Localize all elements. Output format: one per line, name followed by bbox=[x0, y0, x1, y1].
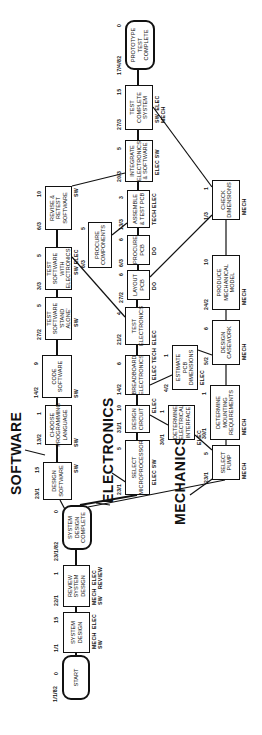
node-prototype-date: 17/4/82 bbox=[116, 56, 122, 75]
node-sdc-duration: 0 bbox=[53, 510, 59, 513]
node-estimate-pcb-date: 4/2 bbox=[163, 384, 169, 392]
node-system-design-duration: 15 bbox=[53, 617, 59, 623]
start-date: 1/1/82 bbox=[52, 686, 58, 702]
node-layout-pcb-date: 27/2 bbox=[118, 292, 124, 303]
node-select-micro-duration: 5 bbox=[116, 447, 122, 450]
node-review-date: 22/1 bbox=[53, 595, 59, 606]
node-review-system-design: REVIEW SYSTEM DESIGN bbox=[63, 565, 90, 607]
node-choose-language: CHOOSE PROGRAMMING LANGUAGE bbox=[45, 405, 72, 445]
node-revise-retest-software: REVISE & RETEST SOFTWARE bbox=[45, 186, 72, 230]
node-select-pump-resources: MECH bbox=[241, 463, 247, 479]
node-tss-resources: SW bbox=[73, 318, 79, 327]
node-test-electronics-date: 21/2 bbox=[116, 334, 122, 345]
node-revise-duration: 10 bbox=[36, 191, 42, 197]
node-tse-duration: 5 bbox=[36, 254, 42, 257]
node-tse-date: 3/3 bbox=[36, 282, 42, 290]
node-choose-language-duration: 1 bbox=[36, 412, 42, 415]
node-determine-electrical-interface: DETERMINE ELECTRICAL INTERFACE bbox=[168, 405, 195, 440]
node-system-design-complete: SYSTEM DESIGN COMPLETE bbox=[62, 505, 92, 550]
node-test-software-electronics: TEST SOFTWARE WITH ELECTRONICS bbox=[45, 247, 72, 290]
node-revise-resources: SW bbox=[73, 188, 79, 197]
node-layout-pcb: LAYOUT PCB bbox=[127, 270, 150, 300]
node-casework-date: 5/2 bbox=[203, 357, 209, 365]
node-procure-components: PROCURE COMPONENTS bbox=[88, 222, 112, 268]
node-tcs-duration: 15 bbox=[116, 89, 122, 95]
node-design-software: DESIGN SOFTWARE bbox=[43, 462, 72, 500]
node-integrate-date: 20/3 bbox=[116, 171, 122, 182]
node-check-dimensions-resources: MECH bbox=[241, 199, 247, 215]
node-integrate-resources: ELEC SW bbox=[154, 149, 160, 175]
node-breadboard-date: 14/2 bbox=[116, 384, 122, 395]
node-tcs-date: 27/3 bbox=[116, 119, 122, 130]
node-mech-model-resources: MECH bbox=[241, 289, 247, 305]
node-review-duration: 1 bbox=[53, 572, 59, 575]
node-sdc-date: 23/1/82 bbox=[53, 542, 59, 561]
node-dei-duration: 1 bbox=[159, 410, 165, 413]
node-determine-mounting: DETERMINE MOUNTING REQUIREMENTS bbox=[210, 385, 240, 440]
node-code-software-resources: SW bbox=[73, 389, 79, 398]
node-test-electronics: TEST ELECTRONICS bbox=[125, 307, 150, 345]
node-check-dimensions: CHECK DIMENSIONS bbox=[212, 180, 240, 220]
node-choose-language-resources: SW bbox=[73, 438, 79, 447]
node-system-design-resources: MECH ELEC SW bbox=[91, 614, 103, 649]
node-integrate: INTEGRATE ELECTRONICS & SOFTWARE bbox=[125, 140, 153, 182]
node-layout-pcb-resources: DO bbox=[151, 282, 157, 290]
node-assemble-test-pcb: ASSEMBLE & TEST PCB bbox=[127, 190, 150, 228]
node-estimate-pcb-dimensions: ESTIMATE PCB DIMENSIONS bbox=[172, 345, 198, 390]
node-procure-pcb-duration: 6 bbox=[118, 238, 124, 241]
node-start-duration: 0 bbox=[53, 672, 59, 675]
node-check-dimensions-date: 1/3 bbox=[203, 212, 209, 220]
node-integrate-duration: 5 bbox=[116, 147, 122, 150]
node-test-electronics-resources: ELEC bbox=[151, 330, 157, 345]
node-code-software: CODE SOFTWARE bbox=[42, 355, 72, 398]
node-assemble-date: 13/3 bbox=[118, 219, 124, 230]
node-tss-date: 27/2 bbox=[36, 329, 42, 340]
node-layout-pcb-duration: 6 bbox=[118, 273, 124, 276]
node-assemble-duration: 3 bbox=[118, 196, 124, 199]
node-choose-language-date: 13/2 bbox=[36, 434, 42, 445]
section-title-mechanics: MECHANICS bbox=[172, 436, 188, 525]
node-procure-components-date: 6/3 bbox=[80, 260, 86, 268]
node-estimate-pcb-duration: 1 bbox=[163, 354, 169, 357]
node-tss-duration: 5 bbox=[36, 304, 42, 307]
node-select-pump: SELECT PUMP bbox=[212, 445, 240, 480]
node-tcs-resources: SW ELEC MECH bbox=[154, 96, 166, 123]
node-check-dimensions-duration: 1 bbox=[203, 187, 209, 190]
section-title-electronics: ELECTRONICS bbox=[100, 397, 116, 503]
node-design-circuit-resources: ELEC bbox=[151, 398, 157, 413]
node-casework-resources: MECH bbox=[241, 344, 247, 360]
node-code-software-date: 14/2 bbox=[33, 387, 39, 398]
node-determine-mounting-date: 30/1 bbox=[201, 428, 207, 439]
node-design-software-date: 23/1 bbox=[34, 488, 40, 499]
node-procure-components-duration: 5 bbox=[80, 227, 86, 230]
node-review-resources: MECH ELEC SW REVIEW bbox=[91, 567, 103, 605]
node-dei-date: 30/1 bbox=[159, 434, 165, 445]
node-select-pump-date: 23/1 bbox=[203, 472, 209, 483]
node-breadboard-duration: 6 bbox=[116, 362, 122, 365]
node-mech-model-date: 24/2 bbox=[203, 299, 209, 310]
node-tse-resources: SW ELEC bbox=[73, 249, 79, 275]
section-title-software: SOFTWARE bbox=[8, 412, 24, 495]
node-procure-pcb-resources: DO bbox=[151, 247, 157, 255]
node-start: START bbox=[62, 655, 90, 700]
node-design-casework: DESIGN CASEWORK bbox=[212, 320, 240, 365]
node-produce-mechanical-model: PRODUCE MECHANICAL MODEL bbox=[212, 255, 240, 310]
node-prototype-duration: 0 bbox=[116, 24, 122, 27]
node-prototype-complete: PROTOTYPE TEST COMPLETE bbox=[125, 20, 155, 70]
node-determine-mounting-duration: 1 bbox=[201, 392, 207, 395]
node-test-complete-system: TEST COMPLETE SYSTEM bbox=[125, 85, 153, 130]
node-select-pump-duration: 5 bbox=[203, 452, 209, 455]
node-breadboard-resources: ELEC TECH bbox=[151, 348, 157, 380]
node-breadboard-electronics: BREADBOARD ELECTRONICS bbox=[125, 355, 150, 395]
network-diagram: SOFTWARE ELECTRONICS MECHANICS 1/1/82 ST… bbox=[0, 0, 262, 735]
node-system-design: SYSTEM DESIGN bbox=[63, 612, 90, 653]
node-select-microprocessor: SELECT MICROPROCESSOR bbox=[125, 440, 150, 495]
node-design-circuit-duration: 10 bbox=[116, 405, 122, 411]
node-code-software-duration: 9 bbox=[33, 362, 39, 365]
node-casework-duration: 6 bbox=[203, 327, 209, 330]
node-select-micro-date: 23/1 bbox=[116, 484, 122, 495]
node-mech-model-duration: 10 bbox=[203, 259, 209, 265]
node-estimate-pcb-resources: ELEC bbox=[199, 370, 205, 385]
node-revise-date: 6/3 bbox=[36, 222, 42, 230]
node-design-software-resources: SW bbox=[73, 464, 79, 473]
